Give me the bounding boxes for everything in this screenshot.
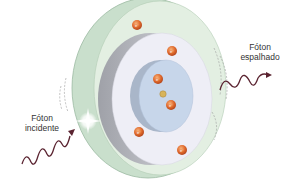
label-line: Fóton: [22, 113, 62, 123]
incident-photon-wave: [22, 129, 75, 164]
arrow-head-icon: [68, 129, 75, 136]
electron: e⁻: [132, 20, 142, 30]
label-line: incidente: [22, 123, 62, 133]
atom-diagram: e⁻ e⁻ e⁻ e⁻ e⁻ e⁻: [0, 0, 293, 184]
svg-text:e⁻: e⁻: [137, 130, 141, 135]
scattered-photon-wave: [220, 72, 272, 90]
electron: e⁻: [134, 127, 144, 137]
scattered-photon-label: Fóton espalhado: [234, 42, 286, 62]
svg-text:e⁻: e⁻: [169, 103, 173, 108]
electron: e⁻: [166, 100, 176, 110]
electron: e⁻: [177, 145, 187, 155]
svg-text:e⁻: e⁻: [170, 49, 174, 54]
label-line: Fóton: [234, 42, 286, 52]
svg-text:e⁻: e⁻: [135, 23, 139, 28]
arrow-head-icon: [266, 72, 272, 78]
label-line: espalhado: [234, 52, 286, 62]
svg-text:e⁻: e⁻: [156, 77, 160, 82]
electron: e⁻: [153, 74, 163, 84]
electron: e⁻: [167, 46, 177, 56]
nucleus: [160, 91, 166, 97]
svg-text:e⁻: e⁻: [180, 148, 184, 153]
vibration-lines-left: [60, 78, 68, 112]
incident-photon-label: Fóton incidente: [22, 113, 62, 133]
